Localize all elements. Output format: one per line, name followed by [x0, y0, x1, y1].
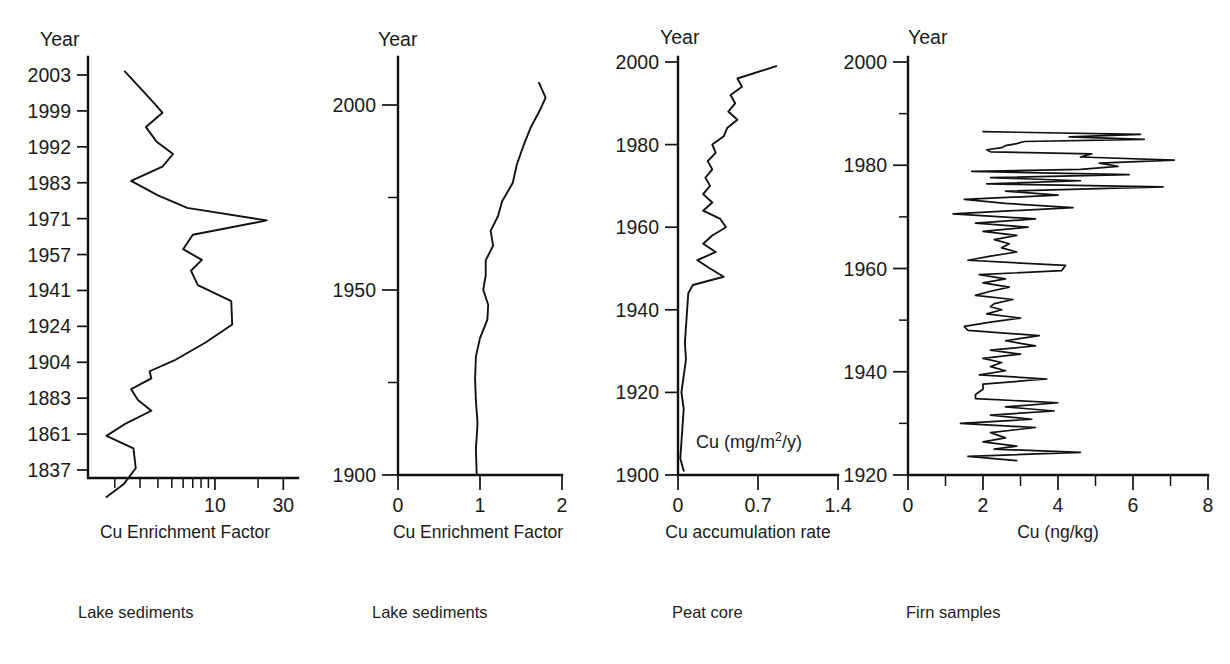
- y-tick-label: 1983: [28, 172, 71, 194]
- y-tick-group: 190019502000: [333, 94, 398, 486]
- y-tick-label: 1950: [333, 279, 377, 301]
- caption-eastern-finland: Peat core Eastern Finland Rausch et al..…: [672, 560, 814, 664]
- panel-coats-land: Year 19201940196019802000 02468 Cu (ng/k…: [860, 0, 1230, 545]
- x-axis-title: Cu Enrichment Factor: [393, 522, 563, 542]
- x-axis-title: Cu Enrichment Factor: [100, 522, 270, 542]
- y-tick-label: 1904: [28, 351, 72, 373]
- y-tick-label: 1980: [616, 134, 660, 156]
- caption-line-archive: Peat core: [672, 602, 814, 623]
- y-tick-label: 1900: [616, 464, 660, 486]
- y-tick-label: 2000: [616, 51, 660, 73]
- caption-lake-lucerne: Lake sediments Lake Lucerne, Switzerland…: [78, 560, 272, 664]
- year-axis-label: Year: [660, 26, 700, 48]
- y-tick-label: 1960: [616, 216, 660, 238]
- x-tick-label: 0: [673, 494, 684, 516]
- y-tick-label: 1940: [616, 299, 660, 321]
- x-tick-label: 8: [1203, 494, 1214, 516]
- x-tick-group: 00.71.4: [673, 475, 852, 516]
- caption-line-archive: Lake sediments: [78, 602, 272, 623]
- y-tick-label: 1999: [28, 100, 71, 122]
- y-tick-group: 2003199919921983197119571941192419041883…: [28, 64, 88, 481]
- x-tick-label: 6: [1128, 494, 1139, 516]
- panel-lake-lucerne: Year 20031999199219831971195719411924190…: [0, 0, 320, 545]
- y-tick-label: 1960: [844, 258, 888, 280]
- year-axis-label: Year: [40, 28, 80, 50]
- y-tick-label: 1883: [28, 387, 71, 409]
- x-tick-label: 1: [475, 494, 486, 516]
- y-tick-label: 1957: [28, 244, 71, 266]
- y-tick-group: 190019201940196019802000: [616, 51, 678, 486]
- x-tick-label: 0: [903, 494, 914, 516]
- x-axis-title: Cu (ng/kg): [1017, 522, 1099, 542]
- y-tick-label: 1900: [333, 464, 377, 486]
- caption-line-archive: Lake sediments: [372, 602, 574, 623]
- x-tick-label: 1.4: [824, 494, 851, 516]
- plot-lake-lucerne: Year 20031999199219831971195719411924190…: [0, 0, 320, 545]
- x-tick-group: 012: [393, 475, 568, 516]
- x-tick-label: 2: [557, 494, 568, 516]
- data-series-line: [680, 66, 776, 471]
- x-tick-label: 0: [393, 494, 404, 516]
- x-tick-label: 2: [978, 494, 989, 516]
- data-series-line: [106, 71, 266, 497]
- axis-lines: [678, 57, 838, 475]
- x-tick-label: 4: [1053, 494, 1064, 516]
- y-tick-label: 1940: [844, 361, 888, 383]
- caption-line-archive: Firn samples: [906, 602, 1072, 623]
- y-tick-label: 1861: [28, 423, 71, 445]
- axis-lines: [398, 57, 562, 475]
- year-axis-label: Year: [378, 28, 418, 50]
- panel-baffin-island: Year 190019502000 012 Cu Enrichment Fact…: [320, 0, 620, 545]
- y-tick-label: 2000: [844, 51, 888, 73]
- plot-coats-land: Year 19201940196019802000 02468 Cu (ng/k…: [860, 0, 1230, 545]
- x-tick-label: 10: [204, 494, 226, 516]
- x-axis-title: Cu accumulation rate: [665, 522, 830, 542]
- y-tick-label: 1992: [28, 136, 71, 158]
- plot-baffin-island: Year 190019502000 012 Cu Enrichment Fact…: [320, 0, 620, 545]
- x-tick-label: 0.7: [744, 494, 771, 516]
- x-tick-group: 1030: [115, 478, 294, 516]
- x-tick-group: 02468: [903, 475, 1214, 516]
- y-tick-label: 1837: [28, 459, 71, 481]
- plot-eastern-finland: Year 190019201940196019802000 00.71.4 Cu…: [620, 0, 860, 545]
- figure-cu-records: Year 20031999199219831971195719411924190…: [0, 0, 1230, 664]
- caption-baffin-island: Lake sediments Baffin Island, Arctic Can…: [372, 560, 574, 664]
- axis-lines: [908, 57, 1208, 475]
- y-tick-label: 1924: [28, 315, 72, 337]
- y-tick-label: 2003: [28, 64, 71, 86]
- data-series-line: [475, 83, 546, 475]
- data-series-line: [953, 132, 1174, 461]
- panel-eastern-finland: Year 190019201940196019802000 00.71.4 Cu…: [620, 0, 860, 545]
- y-tick-label: 1941: [28, 279, 71, 301]
- year-axis-label: Year: [908, 26, 948, 48]
- y-tick-label: 1980: [844, 154, 888, 176]
- y-tick-label: 2000: [333, 94, 377, 116]
- y-tick-label: 1920: [616, 381, 660, 403]
- y-tick-label: 1971: [28, 208, 71, 230]
- x-tick-label: 30: [272, 494, 294, 516]
- inline-annotation: Cu (mg/m2/y): [696, 430, 802, 452]
- y-tick-label: 1920: [844, 464, 888, 486]
- caption-coats-land: Firn samples Coats Land, Antarctica Wolf…: [906, 560, 1072, 664]
